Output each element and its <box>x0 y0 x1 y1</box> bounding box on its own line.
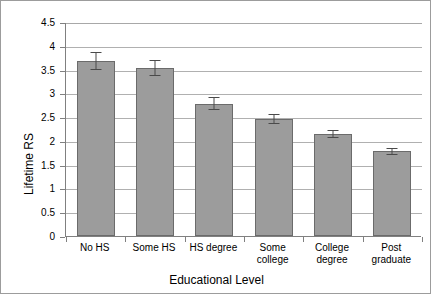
y-axis-title-container: Lifetime RS <box>9 61 29 221</box>
error-bar-stem <box>214 97 215 110</box>
error-bar-cap-top <box>327 130 338 131</box>
error-bar-cap-top <box>268 114 279 115</box>
bar-slot <box>244 22 303 236</box>
error-bar <box>90 52 101 69</box>
y-axis-tick-mark <box>60 213 65 214</box>
bar-slot <box>66 22 125 236</box>
error-bar <box>149 60 160 76</box>
error-bar-stem <box>95 52 96 69</box>
y-axis-tick-mark <box>60 94 65 95</box>
x-axis-tick-label: College degree <box>302 242 361 266</box>
y-axis-tick-label: 4 <box>1 42 55 52</box>
x-axis-tick-label: Some college <box>243 242 302 266</box>
y-axis-tick-mark <box>60 71 65 72</box>
error-bar-cap-bottom <box>327 137 338 138</box>
y-axis-tick-label: 4.5 <box>1 18 55 28</box>
y-axis-title: Lifetime RS <box>22 94 36 234</box>
error-bar-cap-bottom <box>209 109 220 110</box>
y-axis-tick-mark <box>60 237 65 238</box>
y-axis-tick-mark <box>60 189 65 190</box>
x-axis-title: Educational Level <box>1 273 431 287</box>
error-bar-cap-bottom <box>90 69 101 70</box>
bar[interactable] <box>373 151 411 236</box>
plot-area <box>65 23 421 237</box>
x-axis-tick-label: No HS <box>65 242 124 254</box>
error-bar <box>387 148 398 155</box>
y-axis-tick-mark <box>60 166 65 167</box>
error-bar <box>327 130 338 139</box>
bar-slot <box>185 22 244 236</box>
bar[interactable] <box>314 134 352 236</box>
error-bar-cap-bottom <box>149 75 160 76</box>
bar[interactable] <box>77 61 115 236</box>
bar-slot <box>303 22 362 236</box>
y-axis-tick-mark <box>60 47 65 48</box>
error-bar-cap-top <box>387 148 398 149</box>
error-bar-cap-top <box>90 52 101 53</box>
error-bar-stem <box>154 60 155 76</box>
bar-slot <box>363 22 422 236</box>
bar-slot <box>125 22 184 236</box>
error-bar-cap-bottom <box>387 154 398 155</box>
error-bar <box>268 114 279 124</box>
x-axis-tick-label: Post graduate <box>362 242 421 266</box>
error-bar <box>209 97 220 110</box>
chart-figure: 00.511.522.533.544.5 Lifetime RS Educati… <box>0 0 431 294</box>
error-bar-cap-top <box>149 60 160 61</box>
y-axis-tick-mark <box>60 142 65 143</box>
error-bar-cap-top <box>209 97 220 98</box>
x-axis-tick-label: HS degree <box>184 242 243 254</box>
error-bar-cap-bottom <box>268 123 279 124</box>
x-axis-tick-mark <box>422 237 423 242</box>
bar[interactable] <box>255 119 293 236</box>
x-axis-tick-label: Some HS <box>124 242 183 254</box>
y-axis-tick-mark <box>60 23 65 24</box>
bar[interactable] <box>195 104 233 236</box>
y-axis-tick-mark <box>60 118 65 119</box>
bar[interactable] <box>136 68 174 236</box>
